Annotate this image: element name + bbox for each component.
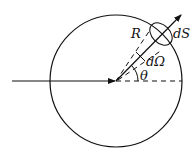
scattered-direction-arrow	[116, 15, 181, 81]
label-solid-angle: dΩ	[146, 54, 165, 69]
label-radius: R	[130, 26, 141, 41]
label-surface-element: dS	[173, 26, 190, 41]
label-theta: θ	[140, 68, 148, 83]
scattering-diagram: R dS dΩ θ	[0, 0, 196, 153]
